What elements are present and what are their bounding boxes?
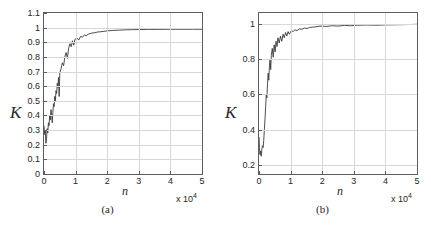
y-tick-label-a: 0.9 xyxy=(27,38,40,47)
gridline-vertical xyxy=(107,13,108,174)
x-tick-a xyxy=(170,171,171,174)
x-tick-b xyxy=(354,171,355,174)
gridline-vertical xyxy=(291,13,292,174)
y-tick-a xyxy=(44,72,47,73)
plot-area-a: 00.10.20.30.40.50.60.70.80.911.1012345 xyxy=(43,12,203,175)
y-tick-label-a: 0.7 xyxy=(27,67,40,76)
y-tick-label-a: 0.5 xyxy=(27,96,40,105)
y-tick-label-a: 0.3 xyxy=(27,126,40,135)
x-axis-multiplier-exp-b: 4 xyxy=(408,192,412,199)
gridline-horizontal xyxy=(44,130,202,131)
y-tick-a xyxy=(44,13,47,14)
gridline-horizontal xyxy=(44,115,202,116)
y-tick-a xyxy=(44,101,47,102)
x-tick-label-a: 3 xyxy=(136,177,141,186)
y-tick-b xyxy=(259,94,262,95)
data-curve-a xyxy=(44,13,202,174)
gridline-horizontal xyxy=(44,57,202,58)
x-axis-multiplier-exp-a: 4 xyxy=(193,192,197,199)
gridline-horizontal xyxy=(259,59,417,60)
x-tick-label-a: 0 xyxy=(41,177,46,186)
y-tick-label-a: 0.6 xyxy=(27,82,40,91)
series-line-K xyxy=(259,24,417,156)
y-tick-label-a: 0 xyxy=(35,170,40,179)
x-tick-label-b: 4 xyxy=(383,177,388,186)
y-tick-b xyxy=(259,130,262,131)
gridline-horizontal xyxy=(259,94,417,95)
x-tick-label-b: 5 xyxy=(414,177,419,186)
y-tick-label-b: 0.4 xyxy=(242,125,255,134)
x-tick-a xyxy=(107,171,108,174)
y-tick-a xyxy=(44,130,47,131)
y-tick-label-b: 0.2 xyxy=(242,161,255,170)
y-tick-a xyxy=(44,42,47,43)
y-tick-label-a: 1 xyxy=(35,23,40,32)
panel-label-a: (a) xyxy=(0,203,215,215)
x-tick-label-a: 5 xyxy=(199,177,204,186)
gridline-horizontal xyxy=(259,165,417,166)
y-tick-label-a: 0.1 xyxy=(27,155,40,164)
x-tick-b xyxy=(291,171,292,174)
x-tick-b xyxy=(385,171,386,174)
y-tick-label-a: 0.2 xyxy=(27,140,40,149)
y-tick-a xyxy=(44,57,47,58)
y-tick-a xyxy=(44,145,47,146)
y-tick-label-a: 0.8 xyxy=(27,52,40,61)
x-axis-title-b: n xyxy=(337,184,343,199)
y-tick-label-b: 0.6 xyxy=(242,90,255,99)
x-tick-label-a: 1 xyxy=(73,177,78,186)
y-tick-a xyxy=(44,28,47,29)
x-axis-title-a: n xyxy=(122,184,128,199)
gridline-vertical xyxy=(76,13,77,174)
gridline-vertical xyxy=(322,13,323,174)
gridline-vertical xyxy=(170,13,171,174)
y-tick-label-a: 0.4 xyxy=(27,111,40,120)
gridline-horizontal xyxy=(44,28,202,29)
x-tick-a xyxy=(202,171,203,174)
y-axis-title-a: K xyxy=(10,103,21,123)
x-tick-label-b: 2 xyxy=(320,177,325,186)
y-tick-a xyxy=(44,159,47,160)
x-tick-a xyxy=(44,171,45,174)
gridline-horizontal xyxy=(44,159,202,160)
y-tick-a xyxy=(44,174,47,175)
gridline-horizontal xyxy=(44,72,202,73)
gridline-horizontal xyxy=(259,24,417,25)
subplot-a: K 00.10.20.30.40.50.60.70.80.911.1012345… xyxy=(0,0,215,226)
plot-area-b: 0.20.40.60.81012345 xyxy=(258,12,418,175)
x-tick-label-b: 0 xyxy=(256,177,261,186)
y-tick-label-a: 1.1 xyxy=(27,9,40,18)
x-tick-label-a: 4 xyxy=(168,177,173,186)
x-tick-label-a: 2 xyxy=(105,177,110,186)
x-tick-b xyxy=(417,171,418,174)
gridline-vertical xyxy=(385,13,386,174)
subplot-b: K 0.20.40.60.81012345 n x 104 (b) xyxy=(215,0,430,226)
gridline-horizontal xyxy=(259,130,417,131)
y-tick-b xyxy=(259,59,262,60)
x-tick-a xyxy=(139,171,140,174)
gridline-horizontal xyxy=(44,101,202,102)
y-tick-label-b: 0.8 xyxy=(242,55,255,64)
x-tick-b xyxy=(259,171,260,174)
figure-two-panel-line-plots: K 00.10.20.30.40.50.60.70.80.911.1012345… xyxy=(0,0,431,226)
x-tick-b xyxy=(322,171,323,174)
y-tick-b xyxy=(259,24,262,25)
x-tick-label-b: 1 xyxy=(288,177,293,186)
y-tick-a xyxy=(44,115,47,116)
panel-label-b: (b) xyxy=(215,203,430,215)
gridline-horizontal xyxy=(44,145,202,146)
gridline-horizontal xyxy=(44,42,202,43)
gridline-vertical xyxy=(139,13,140,174)
x-tick-a xyxy=(76,171,77,174)
gridline-horizontal xyxy=(44,86,202,87)
figure-caption-fragment xyxy=(6,217,425,226)
y-tick-label-b: 1 xyxy=(250,19,255,28)
y-axis-title-b: K xyxy=(225,103,236,123)
y-tick-a xyxy=(44,86,47,87)
y-tick-b xyxy=(259,165,262,166)
gridline-vertical xyxy=(354,13,355,174)
x-tick-label-b: 3 xyxy=(351,177,356,186)
